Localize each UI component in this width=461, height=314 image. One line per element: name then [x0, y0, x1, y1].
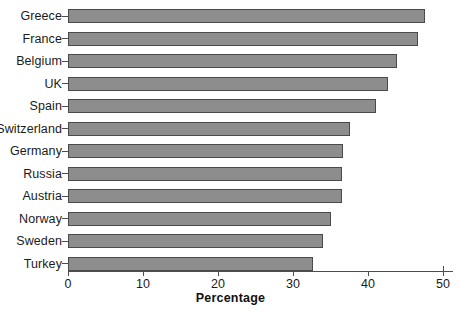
category-label: Belgium	[16, 54, 62, 68]
bar	[68, 122, 350, 136]
bar	[68, 234, 323, 248]
x-axis-tick	[443, 271, 444, 276]
x-axis-tick	[293, 271, 294, 276]
category-label: Turkey	[24, 257, 62, 271]
category-label: Switzerland	[0, 122, 62, 136]
category-label: Russia	[23, 167, 62, 181]
bar	[68, 9, 425, 23]
x-axis-tick-label: 40	[361, 277, 375, 291]
x-axis-tick-label: 20	[211, 277, 225, 291]
bar	[68, 54, 397, 68]
bar	[68, 32, 418, 46]
x-axis-line	[68, 271, 453, 272]
bar	[68, 189, 342, 203]
plot-area: GreeceFranceBelgiumUKSpainSwitzerlandGer…	[0, 0, 461, 314]
x-axis-tick-label: 10	[136, 277, 150, 291]
category-label: France	[22, 32, 62, 46]
bar-row: Greece	[0, 5, 461, 28]
category-label: Austria	[22, 189, 62, 203]
x-axis-tick-label: 30	[286, 277, 300, 291]
category-label: Greece	[20, 9, 62, 23]
x-axis-tick	[368, 271, 369, 276]
bar-row: Spain	[0, 95, 461, 118]
bar	[68, 257, 313, 271]
bar	[68, 212, 331, 226]
category-label: Norway	[19, 212, 62, 226]
x-axis-tick-label: 50	[436, 277, 450, 291]
category-label: UK	[44, 77, 62, 91]
x-axis-tick	[218, 271, 219, 276]
bar-row: Norway	[0, 208, 461, 231]
x-axis-title: Percentage	[0, 291, 461, 305]
x-axis-tick-label: 0	[65, 277, 72, 291]
bar-row: UK	[0, 73, 461, 96]
x-axis-tick	[68, 271, 69, 276]
bar	[68, 99, 376, 113]
x-axis-tick	[143, 271, 144, 276]
bar-row: France	[0, 28, 461, 51]
bar-row: Belgium	[0, 50, 461, 73]
bar-row: Russia	[0, 163, 461, 186]
bar-chart: GreeceFranceBelgiumUKSpainSwitzerlandGer…	[0, 0, 461, 314]
bar-row: Switzerland	[0, 118, 461, 141]
category-label: Germany	[10, 144, 62, 158]
category-label: Sweden	[16, 234, 62, 248]
bar-row: Sweden	[0, 230, 461, 253]
bar	[68, 167, 342, 181]
bar	[68, 77, 388, 91]
bar-row: Austria	[0, 185, 461, 208]
bar	[68, 144, 343, 158]
bar-row: Germany	[0, 140, 461, 163]
category-label: Spain	[30, 99, 62, 113]
